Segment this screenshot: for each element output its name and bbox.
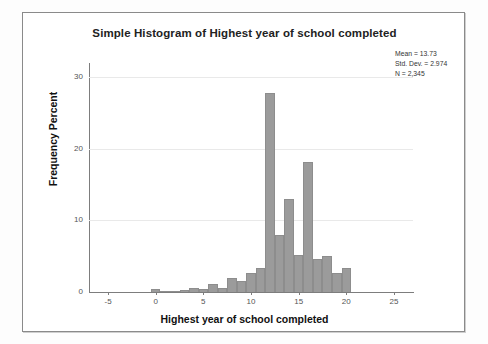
- y-tick-label: 30: [49, 72, 83, 81]
- histogram-bar: [151, 289, 161, 292]
- x-tick-mark: [299, 292, 300, 295]
- histogram-bar: [256, 268, 266, 292]
- stat-n: N = 2,345: [395, 69, 447, 79]
- x-tick-label: 5: [183, 297, 223, 306]
- stat-std-dev: Std. Dev. = 2.974: [395, 59, 447, 69]
- stat-mean: Mean = 13.73: [395, 49, 447, 59]
- histogram-bar: [342, 268, 352, 292]
- x-tick-label: 15: [279, 297, 319, 306]
- x-tick-mark: [394, 292, 395, 295]
- histogram-bar: [218, 288, 228, 292]
- histogram-bar: [313, 259, 323, 292]
- screenshot-canvas: Simple Histogram of Highest year of scho…: [0, 0, 488, 344]
- x-tick-mark: [251, 292, 252, 295]
- x-tick-mark: [346, 292, 347, 295]
- x-tick-label: 20: [326, 297, 366, 306]
- histogram-bar: [199, 289, 209, 292]
- x-tick-label: 10: [231, 297, 271, 306]
- histogram-bar: [227, 278, 237, 292]
- histogram-bar: [208, 284, 218, 292]
- x-tick-label: 25: [374, 297, 414, 306]
- histogram-bar: [332, 273, 342, 292]
- chart-output-frame: Simple Histogram of Highest year of scho…: [22, 12, 465, 332]
- x-tick-mark: [203, 292, 204, 295]
- histogram-bar: [275, 235, 285, 292]
- histogram-bar: [189, 288, 199, 292]
- histogram-bar: [322, 256, 332, 292]
- histogram-bar: [265, 93, 275, 292]
- histogram-bar: [246, 273, 256, 292]
- histogram-bar: [284, 199, 294, 292]
- y-tick-label: 0: [49, 287, 83, 296]
- histogram-bar: [237, 281, 247, 292]
- chart-title: Simple Histogram of Highest year of scho…: [23, 27, 466, 39]
- histogram-bars: [89, 63, 413, 292]
- histogram-bar: [294, 255, 304, 292]
- statistics-annotation: Mean = 13.73 Std. Dev. = 2.974 N = 2,345: [395, 49, 447, 79]
- y-tick-label: 20: [49, 144, 83, 153]
- histogram-bar: [180, 290, 190, 292]
- x-tick-label: 0: [136, 297, 176, 306]
- histogram-bar: [170, 291, 180, 292]
- x-tick-label: -5: [88, 297, 128, 306]
- x-tick-mark: [108, 292, 109, 295]
- y-tick-label: 10: [49, 215, 83, 224]
- histogram-bar: [160, 291, 170, 292]
- x-tick-mark: [156, 292, 157, 295]
- histogram-bar: [303, 162, 313, 292]
- x-axis-label: Highest year of school completed: [23, 313, 466, 325]
